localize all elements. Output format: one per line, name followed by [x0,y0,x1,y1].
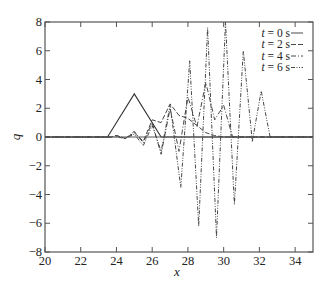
y-axis-label: q [8,133,23,140]
x-tick-labels: 2022242628303234 [39,254,302,268]
series-line-1 [45,104,313,141]
y-tick-label: 8 [36,15,42,29]
legend-entry: t = 2 s [261,38,303,50]
x-tick-label: 32 [253,254,266,268]
y-tick-label: −2 [29,159,42,173]
series-line-2 [45,82,313,154]
y-tick-label: −8 [29,245,42,259]
line-chart: 2022242628303234 −8−6−4−202468 x q t = 0… [0,0,329,287]
legend-entry: t = 0 s [261,27,303,39]
y-tick-label: 6 [36,44,42,58]
legend: t = 0 st = 2 st = 4 st = 6 s [261,27,303,74]
x-axis-label: x [173,264,180,279]
y-tick-labels: −8−6−4−202468 [29,15,43,259]
y-tick-label: 2 [36,101,42,115]
x-tick-label: 28 [182,254,195,268]
y-tick-label: 4 [36,73,43,87]
legend-label: t = 0 s [261,27,290,39]
y-tick-label: −4 [29,188,43,202]
legend-label: t = 6 s [261,61,290,73]
legend-label: t = 2 s [261,38,290,50]
legend-entry: t = 6 s [261,61,303,73]
y-tick-label: 0 [36,130,42,144]
x-tick-label: 24 [110,254,123,268]
legend-label: t = 4 s [261,50,290,62]
y-tick-label: −6 [29,216,42,230]
x-tick-label: 26 [146,254,159,268]
x-tick-label: 34 [289,254,302,268]
x-tick-label: 22 [74,254,87,268]
legend-entry: t = 4 s [261,50,303,62]
x-tick-label: 30 [217,254,230,268]
